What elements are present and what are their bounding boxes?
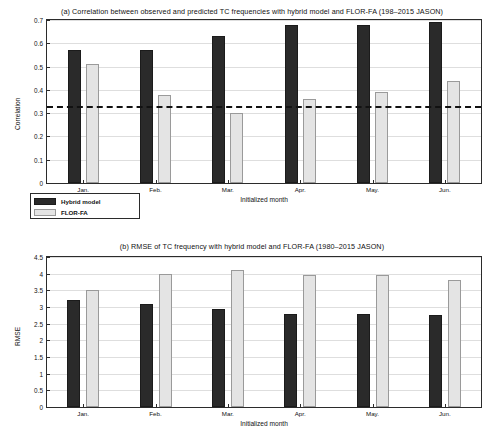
legend-item-florfa: FLOR-FA	[34, 207, 136, 218]
gridline	[47, 390, 481, 391]
legend-label-florfa: FLOR-FA	[61, 209, 88, 216]
bar-hybrid	[140, 304, 153, 407]
y-tick-label: 4.5	[34, 254, 43, 261]
bar-hybrid	[140, 50, 153, 183]
y-tick-label: 1	[39, 370, 43, 377]
y-tick-label: 1.5	[34, 354, 43, 361]
y-tick-mark	[47, 136, 50, 137]
bar-florfa	[448, 280, 461, 407]
y-tick-label: 0.2	[34, 133, 43, 140]
y-tick-label: 3	[39, 304, 43, 311]
x-tick-label: May.	[366, 186, 379, 193]
bar-florfa	[376, 275, 389, 407]
gridline	[47, 160, 481, 161]
panel-a-yaxis-label: Correlation	[14, 98, 21, 130]
legend: Hybrid model FLOR-FA	[30, 193, 140, 219]
legend-swatch-florfa	[34, 209, 56, 216]
y-tick-label: 2.5	[34, 320, 43, 327]
bar-hybrid	[212, 309, 225, 407]
y-tick-label: 0.3	[34, 110, 43, 117]
gridline	[47, 324, 481, 325]
x-tick-label: Mar.	[222, 410, 234, 417]
gridline	[47, 340, 481, 341]
legend-item-hybrid: Hybrid model	[34, 196, 136, 207]
y-tick-label: 0.6	[34, 40, 43, 47]
x-tick-label: Mar.	[222, 186, 234, 193]
x-tick-label: Jan.	[77, 410, 89, 417]
gridline	[47, 290, 481, 291]
x-tick-mark	[156, 180, 157, 183]
gridline	[47, 357, 481, 358]
y-tick-mark	[47, 290, 50, 291]
bar-hybrid	[429, 22, 442, 183]
gridline	[47, 274, 481, 275]
x-tick-mark	[300, 404, 301, 407]
gridline	[47, 257, 481, 258]
y-tick-mark	[47, 307, 50, 308]
y-tick-mark	[47, 274, 50, 275]
panel-rmse: (b) RMSE of TC frequency with hybrid mod…	[0, 228, 504, 448]
bar-florfa	[86, 64, 99, 183]
y-tick-mark	[47, 340, 50, 341]
x-tick-mark	[373, 404, 374, 407]
bar-hybrid	[284, 314, 297, 407]
y-tick-mark	[47, 43, 50, 44]
y-tick-mark	[47, 160, 50, 161]
x-tick-label: Jan.	[77, 186, 89, 193]
x-tick-mark	[445, 180, 446, 183]
x-tick-mark	[300, 180, 301, 183]
y-tick-label: 0.4	[34, 86, 43, 93]
bar-hybrid	[67, 300, 80, 407]
bar-hybrid	[68, 50, 81, 183]
y-tick-label: 0.5	[34, 63, 43, 70]
x-tick-label: Apr.	[295, 186, 306, 193]
gridline	[47, 307, 481, 308]
x-tick-label: May.	[366, 410, 379, 417]
panel-a-plot-area: 00.10.20.30.40.50.60.7Jan.Feb.Mar.Apr.Ma…	[46, 19, 482, 184]
panel-b-title: (b) RMSE of TC frequency with hybrid mod…	[0, 242, 504, 251]
y-tick-label: 3.5	[34, 287, 43, 294]
y-tick-label: 0.7	[34, 17, 43, 24]
y-tick-mark	[47, 407, 50, 408]
bar-florfa	[447, 81, 460, 183]
x-tick-label: Feb.	[149, 410, 161, 417]
panel-correlation: (a) Correlation between observed and pre…	[0, 0, 504, 225]
x-tick-mark	[373, 180, 374, 183]
bar-hybrid	[285, 25, 298, 183]
panel-b-yaxis-label: RMSE	[14, 327, 21, 346]
gridline	[47, 113, 481, 114]
bar-florfa	[86, 290, 99, 407]
threshold-dashed-line	[47, 106, 481, 108]
y-tick-label: 0.1	[34, 156, 43, 163]
bar-florfa	[231, 270, 244, 407]
bar-hybrid	[357, 314, 370, 407]
y-tick-mark	[47, 390, 50, 391]
panel-b-xaxis-label: Initialized month	[46, 420, 482, 427]
y-tick-label: 0	[39, 180, 43, 187]
figure-root: (a) Correlation between observed and pre…	[0, 0, 504, 448]
bar-hybrid	[212, 36, 225, 183]
legend-label-hybrid: Hybrid model	[61, 198, 101, 205]
panel-b-plot-area: 00.511.522.533.544.5Jan.Feb.Mar.Apr.May.…	[46, 256, 482, 408]
x-tick-label: Feb.	[149, 186, 161, 193]
bar-hybrid	[357, 25, 370, 183]
x-tick-label: Apr.	[295, 410, 306, 417]
panel-a-title: (a) Correlation between observed and pre…	[0, 7, 504, 16]
y-tick-mark	[47, 324, 50, 325]
bar-florfa	[303, 99, 316, 183]
x-tick-mark	[83, 180, 84, 183]
y-tick-label: 0	[39, 404, 43, 411]
gridline	[47, 67, 481, 68]
y-tick-mark	[47, 20, 50, 21]
y-tick-mark	[47, 357, 50, 358]
gridline	[47, 374, 481, 375]
x-tick-label: Jun.	[439, 410, 451, 417]
gridline	[47, 20, 481, 21]
bar-florfa	[159, 274, 172, 407]
y-tick-mark	[47, 374, 50, 375]
x-tick-mark	[228, 404, 229, 407]
x-tick-mark	[228, 180, 229, 183]
gridline	[47, 90, 481, 91]
y-tick-mark	[47, 183, 50, 184]
x-tick-mark	[156, 404, 157, 407]
